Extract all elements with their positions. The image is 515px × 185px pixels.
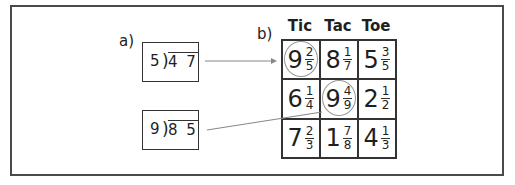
connector-line-2 [207,112,322,130]
arrowhead-icon [271,58,277,64]
connector-lines [0,0,515,185]
